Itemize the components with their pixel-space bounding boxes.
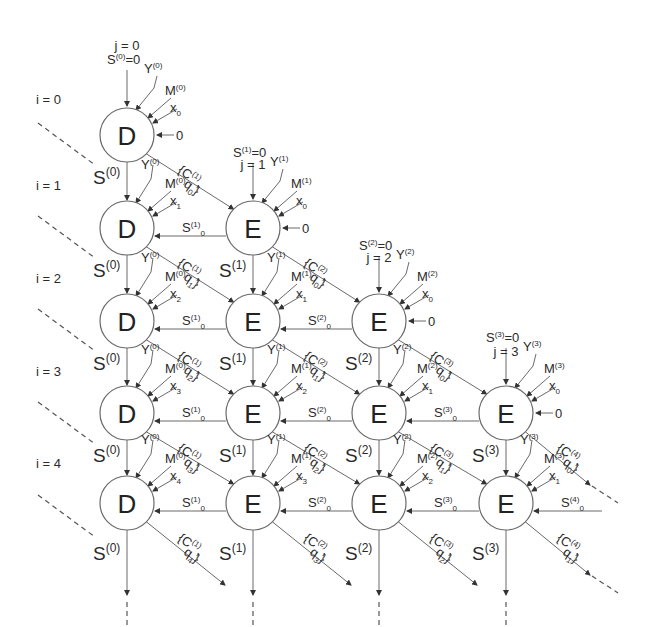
vertical-s-label: S(0): [93, 351, 120, 374]
x-input-label: x3: [296, 468, 308, 486]
vertical-s-label: S(2): [345, 541, 372, 564]
boundary-dashed-line: [38, 216, 95, 258]
node-label: E: [370, 307, 387, 337]
node-label: D: [118, 121, 137, 151]
x-input-label: x1: [549, 468, 561, 486]
y-input-label: Y(2): [393, 342, 412, 357]
y-input-label: Y(1): [270, 154, 289, 169]
node-e-i4-j1[interactable]: E: [226, 476, 280, 530]
vertical-s-label: S(1): [219, 541, 246, 564]
s-init-label: S(0)=0: [107, 52, 140, 67]
horizontal-s0-label: S(2)0: [308, 495, 331, 514]
node-d-i4-j0[interactable]: D: [100, 476, 154, 530]
node-d-i1-j0[interactable]: D: [100, 201, 154, 255]
node-label: E: [244, 399, 261, 429]
y-input-label: Y(2): [396, 247, 415, 262]
y-input-label: Y(0): [141, 250, 160, 265]
x-input-label: x2: [170, 286, 182, 304]
row-label-i3: i = 3: [36, 364, 61, 379]
x-input-label: x0: [170, 100, 182, 118]
horizontal-s0-label: S(1)0: [182, 313, 205, 332]
x-input-label: x2: [422, 468, 434, 486]
x-input-label: x4: [170, 468, 182, 486]
zero-input-label: 0: [302, 221, 309, 236]
y-input-label: Y(0): [141, 342, 160, 357]
vertical-s-label: S(3): [472, 541, 499, 564]
node-label: E: [370, 489, 387, 519]
y-input-label: Y(2): [393, 432, 412, 447]
y-input-arrow: [515, 354, 536, 388]
node-label: E: [497, 489, 514, 519]
x-input-label: x0: [422, 286, 434, 304]
y-input-label: Y(1): [267, 432, 286, 447]
y-input-arrow: [388, 262, 409, 296]
node-d-i2-j0[interactable]: D: [100, 294, 154, 348]
horizontal-s0-label: S(4)0: [561, 495, 584, 514]
node-e-i4-j3[interactable]: E: [479, 476, 533, 530]
systolic-array-diagram: DDEDEEDEEEDEEE j = 0j = 1j = 2j = 3i = 0…: [0, 0, 668, 627]
node-label: D: [118, 399, 137, 429]
node-label: E: [244, 307, 261, 337]
node-label: E: [244, 489, 261, 519]
y-input-arrow: [136, 76, 157, 110]
node-e-i1-j1[interactable]: E: [226, 201, 280, 255]
node-label: D: [118, 307, 137, 337]
node-e-i4-j2[interactable]: E: [352, 476, 406, 530]
horizontal-s0-label: S(1)0: [182, 220, 205, 239]
node-label: E: [497, 399, 514, 429]
vertical-s-label: S(1): [219, 351, 246, 374]
node-e-i2-j1[interactable]: E: [226, 294, 280, 348]
row-label-i4: i = 4: [36, 456, 61, 471]
y-input-label: Y(0): [144, 61, 163, 76]
vertical-s-label: S(0): [93, 258, 120, 281]
node-e-i2-j2[interactable]: E: [352, 294, 406, 348]
y-input-arrow: [262, 169, 283, 203]
m-input-label: M(3): [544, 361, 565, 376]
horizontal-s0-label: S(1)0: [182, 405, 205, 424]
x-input-label: x0: [296, 193, 308, 211]
node-label: D: [118, 489, 137, 519]
horizontal-s0-label: S(3)0: [434, 405, 457, 424]
continuation-dashed-line: [592, 576, 618, 593]
vertical-s-label: S(0): [93, 165, 120, 188]
s-init-label: S(3)=0: [486, 330, 519, 345]
m-input-label: M(1): [291, 176, 312, 191]
x-input-label: x1: [296, 286, 308, 304]
y-input-label: Y(1): [267, 250, 286, 265]
node-d-i0-j0[interactable]: D: [100, 108, 154, 162]
y-input-label: Y(3): [520, 432, 539, 447]
horizontal-s0-label: S(3)0: [434, 495, 457, 514]
node-label: E: [244, 214, 261, 244]
row-label-i1: i = 1: [36, 178, 61, 193]
x-input-label: x3: [170, 378, 182, 396]
row-label-i2: i = 2: [36, 271, 61, 286]
x-input-label: x1: [422, 378, 434, 396]
x-input-label: x2: [296, 378, 308, 396]
vertical-s-label: S(1): [219, 443, 246, 466]
row-label-i0: i = 0: [36, 92, 61, 107]
vertical-s-label: S(0): [93, 541, 120, 564]
diagram-svg: DDEDEEDEEEDEEE j = 0j = 1j = 2j = 3i = 0…: [0, 0, 668, 627]
zero-input-label: 0: [428, 314, 435, 329]
node-label: E: [370, 399, 387, 429]
column-label-j3: j = 3: [493, 344, 519, 359]
vertical-s-label: S(3): [472, 443, 499, 466]
y-input-label: Y(0): [141, 432, 160, 447]
zero-input-label: 0: [555, 406, 562, 421]
x-input-label: x1: [170, 193, 182, 211]
horizontal-s0-label: S(1)0: [182, 495, 205, 514]
vertical-s-label: S(0): [93, 443, 120, 466]
node-label: D: [118, 214, 137, 244]
y-input-label: Y(3): [523, 339, 542, 354]
horizontal-s0-label: S(2)0: [308, 405, 331, 424]
m-input-label: M(0): [165, 83, 186, 98]
y-input-label: Y(1): [267, 342, 286, 357]
vertical-s-label: S(2): [345, 351, 372, 374]
horizontal-s0-label: S(2)0: [308, 313, 331, 332]
boundary-dashed-line: [38, 495, 95, 537]
boundary-dashed-line: [38, 123, 95, 165]
zero-input-label: 0: [176, 128, 183, 143]
y-input-label: Y(0): [141, 157, 160, 172]
vertical-s-label: S(2): [345, 443, 372, 466]
boundary-dashed-line: [38, 309, 95, 351]
